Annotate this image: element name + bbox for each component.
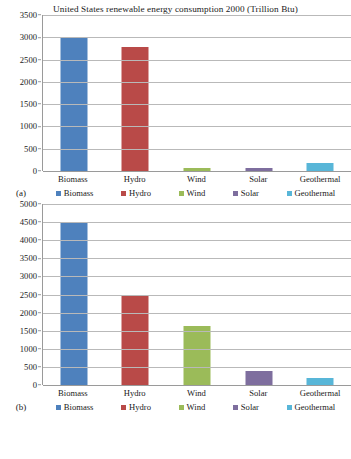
bar-slot <box>228 15 290 171</box>
legend-item-wind[interactable]: Wind <box>179 188 206 198</box>
bar-group-a <box>43 15 351 171</box>
gridline <box>43 349 351 350</box>
bar-biomass[interactable] <box>60 223 87 385</box>
figure-sheet: United States renewable energy consumpti… <box>0 0 351 459</box>
legend-item-wind[interactable]: Wind <box>179 402 206 412</box>
legend-swatch-icon <box>179 405 184 410</box>
gridline <box>43 367 351 368</box>
bar-slot <box>105 15 167 171</box>
y-axis-tick-mark <box>38 15 41 16</box>
legend-item-label: Biomass <box>64 402 94 412</box>
y-axis-tick-label: 3000 <box>20 33 37 42</box>
gridline <box>43 295 351 296</box>
y-axis-tick-mark <box>38 148 41 149</box>
bar-hydro[interactable] <box>122 47 149 171</box>
chart-panel-b: 0500100015002000250030003500400045005000… <box>0 204 351 412</box>
gridline <box>43 15 351 16</box>
legend-swatch-icon <box>179 191 184 196</box>
legend-item-hydro[interactable]: Hydro <box>121 402 151 412</box>
y-axis-tick-label: 0 <box>33 381 37 390</box>
legend-item-label: Hydro <box>129 402 151 412</box>
legend-swatch-icon <box>121 191 126 196</box>
legend-item-label: Solar <box>241 402 259 412</box>
bar-solar[interactable] <box>245 371 272 385</box>
y-axis-tick-label: 1000 <box>20 122 37 131</box>
y-axis-tick-label: 2000 <box>20 308 37 317</box>
plot-canvas-b <box>42 204 351 385</box>
y-axis-b: 0500100015002000250030003500400045005000 <box>0 204 42 385</box>
y-axis-tick-label: 2000 <box>20 78 37 87</box>
legend-item-solar[interactable]: Solar <box>233 402 259 412</box>
plot-area-b: 0500100015002000250030003500400045005000 <box>0 204 351 385</box>
bar-slot <box>289 15 351 171</box>
legend-item-label: Biomass <box>64 188 94 198</box>
legend-item-label: Wind <box>187 188 206 198</box>
plot-canvas-a <box>42 15 351 171</box>
y-axis-tick-label: 0 <box>33 167 37 176</box>
bar-slot <box>43 15 105 171</box>
gridline <box>43 313 351 314</box>
y-axis-tick-mark <box>38 348 41 349</box>
gridline <box>43 240 351 241</box>
x-axis-label-wind: Wind <box>166 174 228 184</box>
y-axis-tick-mark <box>38 258 41 259</box>
bar-slot <box>166 15 228 171</box>
y-axis-tick-mark <box>38 81 41 82</box>
x-axis-label-biomass: Biomass <box>42 174 104 184</box>
gridline <box>43 104 351 105</box>
y-axis-tick-mark <box>38 204 41 205</box>
bar-hydro[interactable] <box>122 295 149 385</box>
y-axis-a: 0500100015002000250030003500 <box>0 15 42 171</box>
y-axis-tick-label: 4000 <box>20 236 37 245</box>
plot-area-a: 0500100015002000250030003500 <box>0 15 351 171</box>
y-axis-tick-mark <box>38 171 41 172</box>
gridline <box>43 126 351 127</box>
legend-swatch-icon <box>233 191 238 196</box>
legend-item-hydro[interactable]: Hydro <box>121 188 151 198</box>
y-axis-tick-mark <box>38 126 41 127</box>
y-axis-tick-mark <box>38 59 41 60</box>
y-axis-tick-mark <box>38 312 41 313</box>
y-axis-tick-label: 1500 <box>20 100 37 109</box>
legend-row-b: (b) BiomassHydroWindSolarGeothermal <box>0 398 351 412</box>
panel-label-a: (a) <box>0 188 42 198</box>
bar-wind[interactable] <box>183 326 210 385</box>
gridline <box>43 60 351 61</box>
legend-row-a: (a) BiomassHydroWindSolarGeothermal <box>0 184 351 198</box>
y-axis-tick-mark <box>38 366 41 367</box>
legend-item-solar[interactable]: Solar <box>233 188 259 198</box>
gridline <box>43 222 351 223</box>
legend-item-geothermal[interactable]: Geothermal <box>287 402 336 412</box>
legend-item-label: Hydro <box>129 188 151 198</box>
legend-item-biomass[interactable]: Biomass <box>56 402 94 412</box>
x-axis-labels-b: BiomassHydroWindSolarGeothermal <box>42 385 351 398</box>
x-axis-label-solar: Solar <box>227 174 289 184</box>
y-axis-tick-mark <box>38 222 41 223</box>
legend-b: BiomassHydroWindSolarGeothermal <box>42 402 351 412</box>
axis-baseline <box>43 171 351 172</box>
y-axis-tick-label: 500 <box>24 144 37 153</box>
legend-item-geothermal[interactable]: Geothermal <box>287 188 336 198</box>
x-axis-label-solar: Solar <box>227 388 289 398</box>
legend-swatch-icon <box>56 405 61 410</box>
y-axis-tick-label: 2500 <box>20 55 37 64</box>
y-axis-tick-label: 5000 <box>20 200 37 209</box>
legend-swatch-icon <box>287 405 292 410</box>
y-axis-tick-label: 3500 <box>20 254 37 263</box>
y-axis-tick-mark <box>38 330 41 331</box>
x-axis-labels-a: BiomassHydroWindSolarGeothermal <box>42 171 351 184</box>
bar-geothermal[interactable] <box>307 163 334 171</box>
legend-swatch-icon <box>56 191 61 196</box>
legend-item-label: Geothermal <box>295 402 336 412</box>
y-axis-tick-label: 3000 <box>20 272 37 281</box>
legend-item-label: Geothermal <box>295 188 336 198</box>
legend-swatch-icon <box>287 191 292 196</box>
chart-title-a: United States renewable energy consumpti… <box>0 0 351 15</box>
y-axis-tick-mark <box>38 240 41 241</box>
x-axis-label-hydro: Hydro <box>104 388 166 398</box>
x-axis-label-geothermal: Geothermal <box>289 174 351 184</box>
gridline <box>43 258 351 259</box>
legend-item-biomass[interactable]: Biomass <box>56 188 94 198</box>
y-axis-tick-label: 500 <box>24 363 37 372</box>
gridline <box>43 37 351 38</box>
